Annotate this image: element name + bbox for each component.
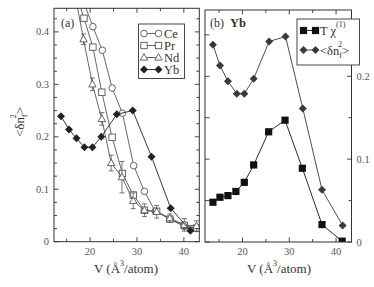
legend-label-base: T χ bbox=[320, 24, 337, 38]
panel-a-y-axis-title: <δnf2> bbox=[9, 107, 29, 137]
panel-b-legend: T χ(1) <δnf2> bbox=[297, 19, 360, 65]
x-tick-label: 40 bbox=[179, 246, 190, 257]
open-square-marker-icon bbox=[141, 42, 147, 48]
xlabel-base: V (Å bbox=[247, 261, 274, 276]
filled-square-marker-icon bbox=[281, 117, 288, 124]
filled-square-marker-icon bbox=[299, 165, 306, 172]
y-tick-label: 0.3 bbox=[36, 79, 49, 90]
x-tick-label: 30 bbox=[284, 246, 295, 257]
legend-label: Yb bbox=[164, 63, 179, 77]
legend-label-close: > bbox=[342, 44, 349, 58]
filled-square-marker-icon bbox=[216, 194, 223, 201]
y-right-tick-label: 0 bbox=[357, 237, 362, 248]
panel-a-x-axis-title: V (Å3/atom) bbox=[94, 259, 158, 276]
panel-b-x-axis-title: V (Å3/atom) bbox=[247, 259, 311, 276]
open-square-marker-icon bbox=[99, 89, 105, 95]
y-tick-label: 0.1 bbox=[36, 184, 49, 195]
y-tick-label: 0.4 bbox=[36, 26, 50, 37]
xlabel-unit: /atom) bbox=[124, 261, 158, 276]
xlabel-unit: /atom) bbox=[277, 261, 311, 276]
ylabel-base: <δn bbox=[12, 117, 27, 137]
open-circle-marker-icon bbox=[90, 23, 97, 30]
open-circle-marker-icon bbox=[141, 30, 148, 37]
open-square-marker-icon bbox=[109, 134, 115, 140]
open-circle-marker-icon bbox=[155, 30, 162, 37]
y-right-tick-label: 0.2 bbox=[357, 71, 370, 82]
open-circle-marker-icon bbox=[109, 85, 116, 92]
x-tick-label: 30 bbox=[132, 246, 143, 257]
panel-b-title: Yb bbox=[230, 16, 246, 30]
ylabel-close: > bbox=[12, 107, 27, 114]
open-square-marker-icon bbox=[90, 44, 96, 50]
filled-square-marker-icon bbox=[265, 128, 272, 135]
open-circle-marker-icon bbox=[130, 162, 137, 169]
y-right-tick-label: 0.1 bbox=[357, 154, 370, 165]
filled-square-marker-icon bbox=[312, 27, 319, 34]
y-tick-label: 0 bbox=[44, 236, 49, 247]
open-circle-marker-icon bbox=[141, 188, 148, 195]
open-circle-marker-icon bbox=[99, 47, 106, 54]
x-tick-label: 20 bbox=[85, 246, 96, 257]
y-tick-label: 0.2 bbox=[36, 131, 49, 142]
open-square-marker-icon bbox=[155, 42, 161, 48]
legend-label-superscript: (1) bbox=[336, 20, 346, 29]
x-tick-label: 40 bbox=[331, 246, 342, 257]
x-tick-label: 20 bbox=[237, 246, 248, 257]
filled-square-marker-icon bbox=[209, 199, 216, 206]
figure: 20304000.10.20.30.4 (a) <δnf2> V (Å3/ato… bbox=[0, 0, 374, 287]
xlabel-base: V (Å bbox=[94, 261, 121, 276]
filled-square-marker-icon bbox=[241, 179, 248, 186]
filled-square-marker-icon bbox=[318, 221, 325, 228]
panel-a-tag: (a) bbox=[61, 16, 74, 30]
filled-square-marker-icon bbox=[250, 161, 257, 168]
panel-b-letter: (b) bbox=[210, 16, 224, 30]
filled-square-marker-icon bbox=[300, 27, 307, 34]
open-square-marker-icon bbox=[81, 15, 87, 21]
panel-a-legend: Ce Pr Nd Yb bbox=[139, 24, 185, 79]
filled-square-marker-icon bbox=[224, 192, 231, 199]
filled-square-marker-icon bbox=[232, 188, 239, 195]
